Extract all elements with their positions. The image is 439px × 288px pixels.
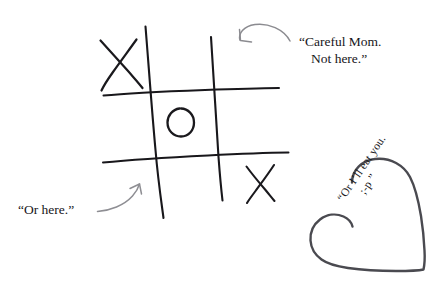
o-circle-stroke	[168, 109, 195, 137]
note-careful-line1: “Careful Mom.	[299, 34, 381, 49]
grid-line-horizontal-bottom	[103, 153, 289, 163]
x-stroke-a	[247, 167, 275, 202]
x-stroke-b	[102, 40, 137, 91]
x-stroke-a	[101, 41, 143, 89]
grid-line-horizontal-top	[104, 88, 280, 96]
arrow-head	[240, 30, 252, 43]
arrow-to-top-right-cell	[240, 24, 291, 42]
note-careful-line2: Not here.”	[299, 50, 381, 67]
mark-x-top-left	[101, 40, 143, 91]
x-stroke-b	[247, 165, 274, 203]
grid-line-vertical-left	[146, 27, 164, 219]
note-careful-mom: “Careful Mom. Not here.”	[299, 33, 381, 67]
note-heart-eat-you: “Or I’ll eat you. ;-p ”	[334, 120, 409, 212]
tic-tac-toe-grid	[103, 27, 289, 219]
arrow-curve	[98, 184, 140, 212]
mark-o-center	[168, 109, 195, 137]
mark-x-bottom-right	[247, 165, 275, 203]
doodle-scene: “Careful Mom. Not here.” “Or here.” “Or …	[0, 0, 439, 288]
note-or-here: “Or here.”	[18, 201, 74, 218]
arrow-to-bottom-left-cell	[98, 184, 142, 212]
grid-line-vertical-right	[211, 37, 223, 201]
arrow-curve	[240, 24, 290, 41]
arrow-head	[130, 184, 142, 194]
